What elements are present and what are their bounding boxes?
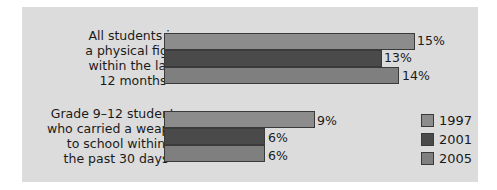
legend-label: 2001 xyxy=(439,132,472,147)
legend-swatch-icon xyxy=(421,133,434,146)
legend-item-1997: 1997 xyxy=(421,111,472,129)
bar-fight-2001 xyxy=(164,50,382,67)
bar-fight-2005 xyxy=(164,67,399,84)
value-label-fight-2005: 14% xyxy=(402,67,430,85)
bar-fight-1997 xyxy=(164,33,415,50)
legend-label: 2005 xyxy=(439,151,472,166)
bar-weapon-1997 xyxy=(164,111,315,128)
bar-weapon-2005 xyxy=(164,145,265,162)
bar-weapon-2001 xyxy=(164,128,265,145)
legend-swatch-icon xyxy=(421,114,434,127)
legend-item-2005: 2005 xyxy=(421,149,472,167)
value-label-weapon-2001: 6% xyxy=(268,129,288,147)
legend-item-2001: 2001 xyxy=(421,130,472,148)
value-label-weapon-2005: 6% xyxy=(268,147,288,165)
value-label-fight-2001: 13% xyxy=(384,49,412,67)
legend-swatch-icon xyxy=(421,152,434,165)
value-label-fight-1997: 15% xyxy=(417,32,445,50)
value-label-weapon-1997: 9% xyxy=(317,112,337,130)
legend-label: 1997 xyxy=(439,113,472,128)
